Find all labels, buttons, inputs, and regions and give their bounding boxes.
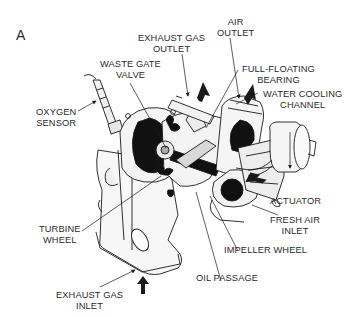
label-waste-gate-valve: WASTE GATE VALVE (100, 59, 161, 80)
exhaust-out-arrow-icon (197, 82, 210, 102)
label-impeller-wheel: IMPELLER WHEEL (224, 245, 307, 256)
label-exhaust-gas-outlet: EXHAUST GAS OUTLET (138, 33, 205, 54)
label-air-outlet: AIR OUTLET (217, 17, 254, 38)
turbocharger-diagram: A EXHAUST GAS OUTLET AIR OUTLET WASTE GA… (0, 0, 352, 317)
label-water-cooling-channel: WATER COOLING CHANNEL (263, 89, 342, 110)
label-actuator: ACTUATOR (270, 196, 321, 207)
label-full-floating-bearing: FULL-FLOATING BEARING (242, 64, 315, 85)
label-oxygen-sensor: OXYGEN SENSOR (36, 107, 76, 128)
label-turbine-wheel: TURBINE WHEEL (39, 224, 81, 245)
exhaust-in-arrow-icon (137, 276, 149, 294)
label-oil-passage: OIL PASSAGE (196, 273, 258, 284)
panel-letter: A (16, 27, 25, 43)
label-fresh-air-inlet: FRESH AIR INLET (270, 215, 320, 236)
label-exhaust-gas-inlet: EXHAUST GAS INLET (56, 290, 123, 311)
